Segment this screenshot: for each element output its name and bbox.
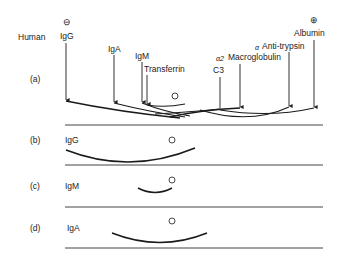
transferrin-arc	[147, 104, 185, 106]
panel-label-a: (a)	[30, 74, 41, 84]
protein-label-c3: C3	[213, 65, 224, 75]
antiserum-label-iga: IgA	[67, 223, 80, 233]
panel-label-c: (c)	[30, 181, 40, 191]
protein-label-albumin: Albumin	[294, 28, 325, 38]
panel-label-d: (d)	[30, 223, 41, 233]
sample-well-a	[172, 93, 178, 99]
anode-plus-icon: ⊕	[310, 15, 318, 25]
igg-arc-b	[66, 148, 195, 162]
sample-well-b	[169, 137, 175, 143]
protein-label-anti-trypsin: Anti-trypsin	[262, 41, 305, 51]
anti-trypsin-arc	[200, 107, 289, 117]
panel-label-b: (b)	[30, 135, 41, 145]
species-label: Human	[18, 32, 46, 42]
protein-label-igm: IgM	[135, 51, 149, 61]
alpha2-prefix: α2	[216, 55, 224, 62]
sample-well-d	[169, 218, 175, 224]
protein-label-transferrin: Transferrin	[144, 64, 185, 74]
protein-label-macroglobulin: Macroglobulin	[228, 52, 281, 62]
antiserum-label-igm: IgM	[65, 181, 79, 191]
iga-arc-d	[112, 233, 207, 243]
panel-a: (a) IgG IgA IgM Transferrin C3 α2 Macrog…	[30, 28, 325, 125]
immunoelectrophoresis-diagram: Human ⊖ ⊕ (a) IgG IgA IgM Transferrin C3…	[0, 0, 346, 262]
cathode-minus-icon: ⊖	[63, 17, 71, 27]
panel-b: (b) IgG	[30, 135, 323, 165]
protein-label-iga: IgA	[108, 44, 121, 54]
panel-d: (d) IgA	[30, 218, 323, 248]
protein-label-igg: IgG	[60, 31, 74, 41]
antiserum-label-igg: IgG	[65, 135, 79, 145]
sample-well-c	[169, 177, 175, 183]
alpha-prefix: α	[255, 44, 260, 51]
panel-c: (c) IgM	[30, 177, 323, 207]
igm-arc-c	[138, 188, 172, 193]
